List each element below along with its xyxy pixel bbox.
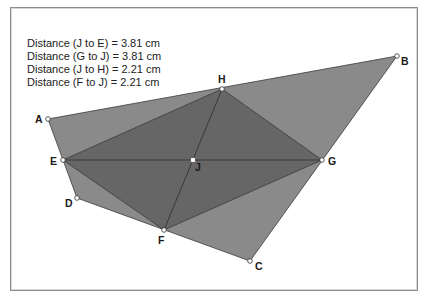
measurement-value: 2.21 cm	[120, 76, 159, 88]
label-d: D	[65, 197, 73, 209]
equals-sign: =	[113, 50, 119, 62]
label-c: C	[255, 260, 263, 272]
label-j: J	[195, 161, 201, 173]
label-b: B	[401, 55, 409, 67]
point-a[interactable]	[46, 117, 51, 122]
point-d[interactable]	[75, 196, 80, 201]
equals-sign: =	[111, 76, 117, 88]
measurement-label: Distance (J to E)	[27, 37, 108, 49]
equals-sign: =	[112, 63, 118, 75]
measurement-list: Distance (J to E) = 3.81 cm Distance (G …	[27, 37, 161, 89]
measurement-value: 3.81 cm	[122, 50, 161, 62]
label-h: H	[218, 73, 226, 85]
measurement-value: 3.81 cm	[121, 37, 160, 49]
measurement-label: Distance (G to J)	[27, 50, 110, 62]
measurement-label: Distance (J to H)	[27, 63, 109, 75]
equals-sign: =	[111, 37, 117, 49]
label-g: G	[328, 155, 336, 167]
label-a: A	[35, 113, 43, 125]
measurement-fj[interactable]: Distance (F to J) = 2.21 cm	[27, 76, 161, 89]
label-f: F	[158, 234, 165, 246]
point-c[interactable]	[248, 259, 253, 264]
point-b[interactable]	[395, 54, 400, 59]
measurement-gj[interactable]: Distance (G to J) = 3.81 cm	[27, 50, 161, 63]
point-g[interactable]	[320, 158, 325, 163]
point-f[interactable]	[162, 228, 167, 233]
point-h[interactable]	[220, 87, 225, 92]
point-e[interactable]	[61, 158, 66, 163]
measurement-jh[interactable]: Distance (J to H) = 2.21 cm	[27, 63, 161, 76]
measurement-value: 2.21 cm	[121, 63, 160, 75]
label-e: E	[50, 155, 57, 167]
measurement-je[interactable]: Distance (J to E) = 3.81 cm	[27, 37, 161, 50]
measurement-label: Distance (F to J)	[27, 76, 108, 88]
